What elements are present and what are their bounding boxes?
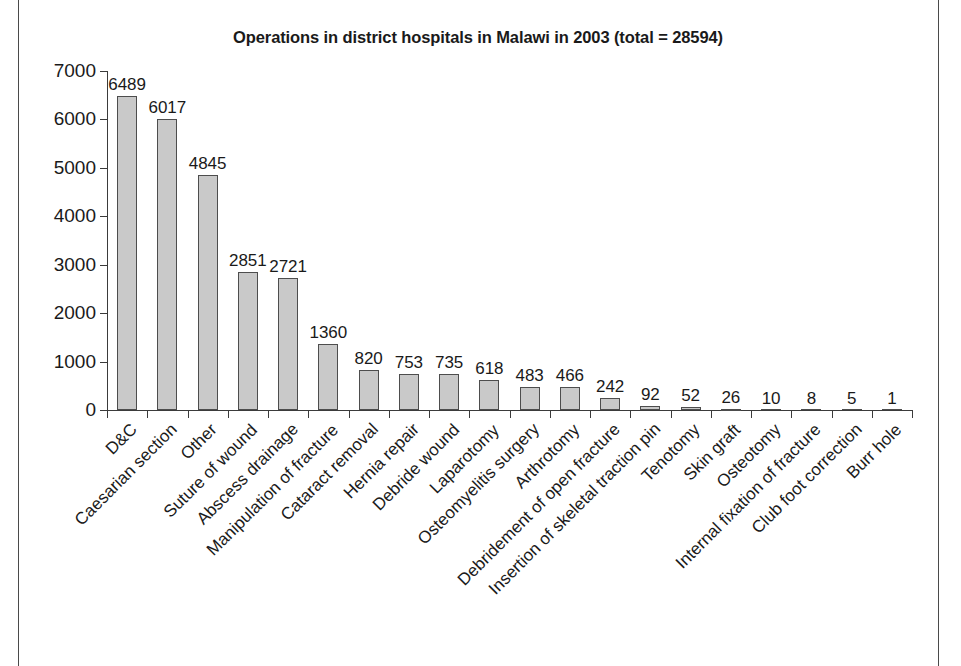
bar-value-label: 618: [475, 359, 503, 379]
y-axis-tick-label: 3000: [54, 254, 96, 276]
bar: [318, 344, 338, 410]
x-axis-tick-mark: [308, 410, 309, 418]
y-axis-tick-mark: [100, 410, 107, 411]
x-axis-category-label: Suture of wound: [160, 420, 262, 522]
x-axis-tick-mark: [188, 410, 189, 418]
y-axis-tick-mark: [100, 216, 107, 217]
bar: [117, 96, 137, 410]
y-axis-tick-mark: [100, 71, 107, 72]
bar: [157, 119, 177, 410]
x-axis-category-label: Laparotomy: [426, 420, 504, 498]
x-axis-tick-mark: [751, 410, 752, 418]
bar-value-label: 4845: [189, 154, 227, 174]
x-axis-tick-mark: [429, 410, 430, 418]
bar-value-label: 10: [762, 389, 781, 409]
x-axis-tick-mark: [711, 410, 712, 418]
y-axis-tick-label: 0: [85, 399, 96, 421]
x-axis-category-label: Arthrotomy: [511, 420, 584, 493]
page-frame-left-rule: [18, 0, 19, 666]
x-axis-category-label: Manipulation of fracture: [203, 420, 343, 560]
bar-value-label: 52: [681, 386, 700, 406]
bar: [359, 370, 379, 410]
x-axis-tick-mark: [832, 410, 833, 418]
bar: [640, 406, 660, 410]
x-axis-tick-mark: [550, 410, 551, 418]
chart-figure: Operations in district hospitals in Mala…: [0, 0, 961, 666]
x-axis-tick-mark: [510, 410, 511, 418]
bar-value-label: 735: [435, 353, 463, 373]
x-axis-tick-mark: [389, 410, 390, 418]
bar-value-label: 6489: [108, 75, 146, 95]
x-axis-category-label: Club foot correction: [748, 420, 866, 538]
x-axis-tick-mark: [147, 410, 148, 418]
bar: [238, 272, 258, 410]
bar: [560, 387, 580, 410]
x-axis-tick-mark: [630, 410, 631, 418]
page-frame-right-rule: [938, 0, 939, 666]
bar: [439, 374, 459, 410]
y-axis-tick-label: 5000: [54, 157, 96, 179]
x-axis-category-label: Internal fixation of fracture: [672, 420, 825, 573]
bar-value-label: 1: [887, 389, 896, 409]
y-axis-tick-mark: [100, 362, 107, 363]
x-axis-category-label: Abscess drainage: [193, 420, 303, 530]
bar: [721, 409, 741, 411]
x-axis-category-label: Debridement of open fracture: [454, 420, 625, 591]
x-axis-category-label: Skin graft: [680, 420, 745, 485]
y-axis-tick-mark: [100, 265, 107, 266]
x-axis-tick-mark: [590, 410, 591, 418]
x-axis-category-label: Tenotomy: [638, 420, 704, 486]
y-axis-tick-label: 7000: [54, 60, 96, 82]
bar-value-label: 820: [354, 349, 382, 369]
x-axis-category-label: Caesarian section: [71, 420, 181, 530]
x-axis-category-label: Burr hole: [843, 420, 906, 483]
x-axis-tick-mark: [791, 410, 792, 418]
x-axis-category-label: Insertion of skeletal traction pin: [485, 420, 665, 600]
bar-value-label: 2721: [269, 257, 307, 277]
x-axis-category-label: Cataract removal: [277, 420, 383, 526]
bar-value-label: 242: [596, 377, 624, 397]
bar-value-label: 466: [556, 366, 584, 386]
x-axis-tick-mark: [349, 410, 350, 418]
y-axis-tick-label: 1000: [54, 351, 96, 373]
bar: [761, 409, 781, 410]
bar-value-label: 753: [395, 353, 423, 373]
x-axis-tick-mark: [107, 410, 108, 418]
x-axis-tick-mark: [469, 410, 470, 418]
x-axis-category-label: Osteomyelitis surgery: [414, 420, 544, 550]
x-axis-tick-mark: [872, 410, 873, 418]
y-axis-line: [107, 71, 108, 410]
bar: [842, 409, 862, 410]
bar: [882, 409, 902, 410]
bar: [278, 278, 298, 410]
x-axis-category-label: D&C: [102, 420, 142, 460]
bar: [600, 398, 620, 410]
bar: [520, 387, 540, 410]
bar: [479, 380, 499, 410]
x-axis-tick-mark: [228, 410, 229, 418]
x-axis-category-label: Hernia repair: [340, 420, 424, 504]
chart-title: Operations in district hospitals in Mala…: [18, 28, 938, 47]
plot-area: 01000200030004000500060007000 6489601748…: [107, 71, 912, 410]
y-axis-tick-label: 4000: [54, 205, 96, 227]
x-axis-category-label: Debride wound: [369, 420, 464, 515]
y-axis-tick-mark: [100, 168, 107, 169]
x-axis-category-label: Other: [177, 420, 221, 464]
bar-value-label: 92: [641, 385, 660, 405]
y-axis-tick-label: 2000: [54, 302, 96, 324]
bar-value-label: 1360: [309, 323, 347, 343]
bar-value-label: 2851: [229, 251, 267, 271]
bar-value-label: 6017: [148, 98, 186, 118]
bar-value-label: 5: [847, 389, 856, 409]
bar-value-label: 26: [721, 388, 740, 408]
x-axis-tick-mark: [912, 410, 913, 418]
bar: [801, 409, 821, 410]
bar-value-label: 483: [515, 366, 543, 386]
bar: [399, 374, 419, 410]
x-axis-tick-mark: [671, 410, 672, 418]
x-axis-category-label: Osteotomy: [713, 420, 785, 492]
bar: [681, 407, 701, 410]
bar: [198, 175, 218, 410]
bar-value-label: 8: [807, 389, 816, 409]
x-axis-tick-mark: [268, 410, 269, 418]
